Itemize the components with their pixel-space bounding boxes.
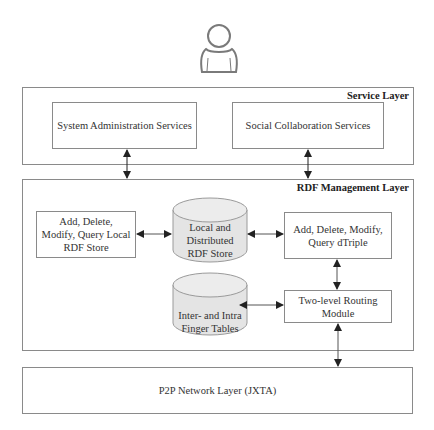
user-icon	[196, 22, 242, 76]
two-level-routing-module-box: Two-level Routing Module	[284, 290, 392, 323]
rdf-management-layer-title: RDF Management Layer	[297, 182, 409, 193]
p2p-network-layer-box: P2P Network Layer (JXTA)	[22, 367, 413, 414]
local-rdf-operations-box: Add, Delete, Modify, Query Local RDF Sto…	[36, 211, 136, 258]
dtriple-operations-box: Add, Delete, Modify, Query dTriple	[284, 212, 392, 259]
service-layer-title: Service Layer	[347, 90, 409, 101]
system-administration-services-box: System Administration Services	[52, 102, 197, 149]
social-collaboration-services-box: Social Collaboration Services	[232, 102, 384, 149]
finger-tables-label: Inter- and Intra Finger Tables	[171, 309, 249, 335]
rdf-store-label: Local and Distributed RDF Store	[171, 221, 249, 260]
